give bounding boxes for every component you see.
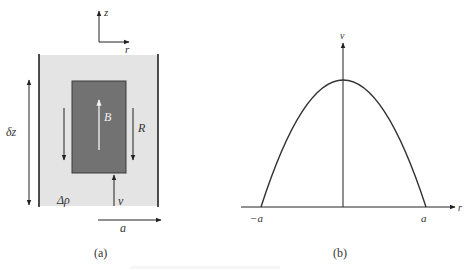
drainage-label: R xyxy=(137,121,146,135)
panel-a-caption: (a) xyxy=(94,246,107,260)
bubble-label: B xyxy=(104,110,112,124)
faint-caption-strip xyxy=(130,266,280,269)
velocity-label: v xyxy=(118,194,124,208)
r-axis-label-b: r xyxy=(458,202,462,213)
panel-b: r v −a a (b) xyxy=(241,30,462,260)
r-axis-label: r xyxy=(125,43,130,55)
right-tick-label: a xyxy=(421,212,427,224)
axes-indicator: z r xyxy=(99,6,130,55)
z-axis-label: z xyxy=(103,6,109,18)
density-difference-label: Δρ xyxy=(56,193,70,207)
v-axis-label-b: v xyxy=(340,30,345,41)
panel-b-caption: (b) xyxy=(333,246,347,260)
radius-label: a xyxy=(120,221,126,235)
panel-a: z r B R δz v Δρ a (a) xyxy=(6,6,161,260)
left-tick-label: −a xyxy=(250,212,263,224)
figure-canvas: z r B R δz v Δρ a (a) r v −a xyxy=(0,0,465,271)
height-increment-label: δz xyxy=(6,125,17,139)
